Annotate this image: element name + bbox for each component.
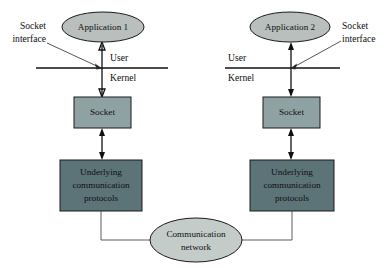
right-arrowhead-down — [288, 89, 294, 97]
right-lower-arrowhead-up — [288, 128, 294, 136]
right-app-socket-connector — [288, 42, 294, 97]
right-network-connector — [240, 211, 292, 240]
communication-network-node — [150, 218, 242, 262]
left-socket-label: Socket — [90, 107, 115, 117]
left-network-connector — [101, 211, 152, 240]
left-socket-interface-label-line1: Socket — [20, 20, 46, 31]
diagram-canvas: Application 1 Socket interface User Kern… — [0, 0, 390, 268]
socket-architecture-diagram: Application 1 Socket interface User Kern… — [0, 0, 390, 268]
right-arrowhead-up — [288, 42, 294, 50]
right-protocols-label-line2: communication — [263, 180, 321, 190]
right-socket-protocols-connector — [288, 128, 294, 160]
left-protocols-label-line3: protocols — [84, 193, 119, 203]
left-socket-interface-label-line2: interface — [12, 33, 46, 44]
communication-network-label-line2: network — [181, 242, 212, 252]
left-protocols-label-line2: communication — [72, 180, 130, 190]
right-kernel-label: Kernel — [228, 72, 254, 83]
left-lower-arrowhead-up — [99, 128, 105, 136]
left-socket-interface-leader — [47, 43, 102, 70]
right-protocols-label-line1: Underlying — [271, 167, 313, 177]
right-socket-label: Socket — [279, 107, 304, 117]
right-user-label: User — [228, 52, 247, 63]
left-leader-line — [47, 43, 101, 68]
right-protocols-label-line3: protocols — [275, 193, 310, 203]
right-socket-interface-label-line1: Socket — [342, 20, 368, 31]
application-1-label: Application 1 — [78, 22, 129, 32]
left-kernel-label: Kernel — [110, 72, 136, 83]
communication-network-label-line1: Communication — [166, 229, 226, 239]
right-leader-line — [292, 41, 341, 68]
application-2-label: Application 2 — [265, 22, 316, 32]
left-protocols-label-line1: Underlying — [80, 167, 122, 177]
right-socket-interface-label-line2: interface — [342, 33, 376, 44]
right-lower-arrowhead-down — [288, 152, 294, 160]
left-socket-protocols-connector — [99, 128, 105, 160]
right-socket-interface-leader — [290, 41, 341, 70]
left-app-socket-connector — [99, 42, 105, 97]
left-user-label: User — [110, 52, 129, 63]
left-lower-arrowhead-down — [99, 152, 105, 160]
